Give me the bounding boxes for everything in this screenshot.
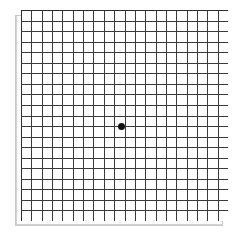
amsler-grid-chart: [0, 0, 243, 248]
center-fixation-dot: [118, 123, 125, 130]
grid-lines: [21, 10, 228, 221]
grid-board: [21, 10, 228, 221]
